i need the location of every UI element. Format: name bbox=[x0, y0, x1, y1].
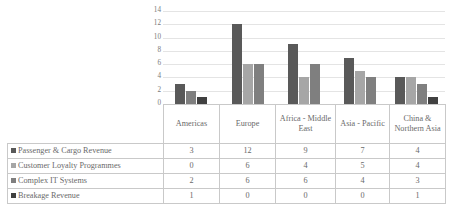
data-cell: 6 bbox=[220, 174, 276, 189]
y-tick-label-4: 4 bbox=[140, 74, 161, 81]
legend-swatch-icon bbox=[11, 148, 16, 153]
legend-swatch-icon bbox=[11, 193, 16, 198]
data-cell: 7 bbox=[336, 144, 390, 159]
y-axis-tick-labels: 14121086420 bbox=[140, 11, 161, 104]
bar bbox=[344, 58, 354, 105]
bar bbox=[395, 77, 405, 104]
category-header-cell: Europe bbox=[220, 105, 276, 144]
legend-cell: Customer Loyalty Programmes bbox=[8, 159, 164, 174]
legend-label: Customer Loyalty Programmes bbox=[18, 161, 121, 170]
bar bbox=[243, 64, 253, 104]
table-header-row: AmericasEuropeAfrica - Middle EastAsia -… bbox=[8, 105, 446, 144]
bar-group bbox=[163, 11, 219, 104]
data-cell: 0 bbox=[164, 159, 220, 174]
data-cell: 4 bbox=[276, 159, 336, 174]
table-row: Customer Loyalty Programmes06454 bbox=[8, 159, 446, 174]
y-tick-label-8: 8 bbox=[140, 47, 161, 54]
category-header-cell: Americas bbox=[164, 105, 220, 144]
bar bbox=[288, 44, 298, 104]
y-tick-label-2: 2 bbox=[140, 87, 161, 94]
data-cell: 1 bbox=[164, 189, 220, 204]
bar bbox=[366, 77, 376, 104]
bar-group bbox=[276, 11, 332, 104]
bar bbox=[355, 71, 365, 104]
data-cell: 3 bbox=[390, 174, 446, 189]
legend-swatch-icon bbox=[11, 178, 16, 183]
legend-label: Passenger & Cargo Revenue bbox=[18, 146, 112, 155]
data-cell: 4 bbox=[336, 174, 390, 189]
data-cell: 1 bbox=[390, 189, 446, 204]
data-cell: 9 bbox=[276, 144, 336, 159]
category-header-cell: China & Northern Asia bbox=[390, 105, 446, 144]
bar-groups bbox=[163, 11, 445, 104]
bar bbox=[254, 64, 264, 104]
bar bbox=[417, 84, 427, 104]
y-tick-label-12: 12 bbox=[140, 21, 161, 28]
bar bbox=[175, 84, 185, 104]
bar bbox=[186, 91, 196, 104]
data-cell: 12 bbox=[220, 144, 276, 159]
bar-group bbox=[332, 11, 388, 104]
data-cell: 0 bbox=[220, 189, 276, 204]
y-tick-label-6: 6 bbox=[140, 61, 161, 68]
table-row: Complex IT Systems26643 bbox=[8, 174, 446, 189]
legend-cell: Passenger & Cargo Revenue bbox=[8, 144, 164, 159]
legend-label: Complex IT Systems bbox=[18, 176, 87, 185]
bar-group bbox=[389, 11, 445, 104]
bar bbox=[428, 97, 438, 104]
bar bbox=[310, 64, 320, 104]
data-cell: 0 bbox=[336, 189, 390, 204]
chart-figure: 14121086420 AmericasEuropeAfrica - Middl… bbox=[0, 0, 453, 211]
category-header-cell: Africa - Middle East bbox=[276, 105, 336, 144]
data-cell: 0 bbox=[276, 189, 336, 204]
bar bbox=[299, 77, 309, 104]
data-cell: 5 bbox=[336, 159, 390, 174]
table-row: Breakage Revenue10001 bbox=[8, 189, 446, 204]
category-label: China & Northern Asia bbox=[390, 114, 445, 135]
data-cell: 3 bbox=[164, 144, 220, 159]
category-label: Asia - Pacific bbox=[336, 119, 389, 130]
category-header-cell: Asia - Pacific bbox=[336, 105, 390, 144]
data-cell: 2 bbox=[164, 174, 220, 189]
table-row: Passenger & Cargo Revenue312974 bbox=[8, 144, 446, 159]
data-cell: 4 bbox=[390, 144, 446, 159]
legend-label: Breakage Revenue bbox=[18, 191, 80, 200]
category-label: Europe bbox=[220, 119, 275, 130]
bar bbox=[406, 77, 416, 104]
data-cell: 6 bbox=[220, 159, 276, 174]
data-cell: 4 bbox=[390, 159, 446, 174]
table-corner-cell bbox=[8, 105, 164, 144]
data-table-body: AmericasEuropeAfrica - Middle EastAsia -… bbox=[8, 105, 446, 204]
y-tick-label-14: 14 bbox=[140, 7, 161, 14]
legend-swatch-icon bbox=[11, 163, 16, 168]
category-label: Americas bbox=[164, 119, 219, 130]
category-label: Africa - Middle East bbox=[276, 114, 335, 135]
bar bbox=[197, 97, 207, 104]
data-cell: 6 bbox=[276, 174, 336, 189]
bar-group bbox=[219, 11, 275, 104]
data-table: AmericasEuropeAfrica - Middle EastAsia -… bbox=[7, 104, 446, 204]
legend-cell: Complex IT Systems bbox=[8, 174, 164, 189]
bar bbox=[232, 24, 242, 104]
legend-cell: Breakage Revenue bbox=[8, 189, 164, 204]
y-tick-label-10: 10 bbox=[140, 34, 161, 41]
